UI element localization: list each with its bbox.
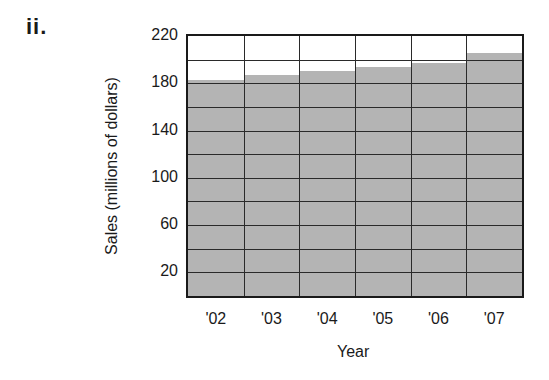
y-axis-title: Sales (millions of dollars)	[103, 66, 121, 266]
bar-02	[188, 80, 244, 296]
gridline-vertical	[411, 36, 412, 296]
y-tick-label: 60	[128, 216, 178, 232]
gridline-vertical	[466, 36, 467, 296]
y-tick-label: 20	[128, 263, 178, 279]
bar-04	[299, 71, 355, 296]
gridline-vertical	[244, 36, 245, 296]
bar-03	[244, 75, 300, 296]
gridline-vertical	[299, 36, 300, 296]
bar-07	[466, 53, 522, 296]
y-tick-label: 100	[128, 169, 178, 185]
y-tick-label: 140	[128, 122, 178, 138]
x-axis-title: Year	[337, 343, 369, 361]
x-tick-label: '03	[244, 310, 300, 328]
figure-label: ii.	[26, 14, 47, 40]
gridline-vertical	[355, 36, 356, 296]
bar-05	[355, 67, 411, 296]
x-tick-label: '02	[188, 310, 244, 328]
x-tick-label: '06	[411, 310, 467, 328]
x-tick-label: '04	[299, 310, 355, 328]
bar-06	[411, 63, 467, 296]
y-tick-label: 180	[128, 74, 178, 90]
x-tick-label: '05	[355, 310, 411, 328]
y-tick-label: 220	[128, 27, 178, 43]
x-tick-label: '07	[466, 310, 522, 328]
plot-area	[186, 34, 524, 298]
